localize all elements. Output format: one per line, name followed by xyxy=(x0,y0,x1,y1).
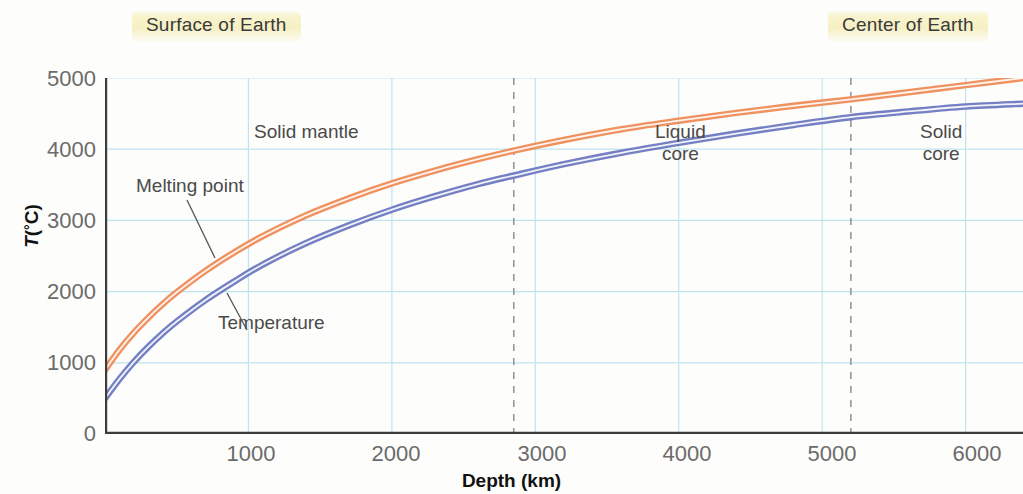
y-tick-5000: 5000 xyxy=(6,66,96,92)
label-surface-of-earth: Surface of Earth xyxy=(132,10,301,42)
curve-label-temperature: Temperature xyxy=(218,312,325,334)
y-tick-4000: 4000 xyxy=(6,137,96,163)
chart-svg xyxy=(105,78,1023,434)
label-center-of-earth: Center of Earth xyxy=(828,10,988,42)
melting-point-leader-line xyxy=(187,200,215,258)
x-axis-title: Depth (km) xyxy=(0,470,1023,492)
x-tick-5000: 5000 xyxy=(808,441,857,467)
x-tick-1000: 1000 xyxy=(227,441,276,467)
grid-lines xyxy=(105,78,1023,434)
region-label-liquid-core: Liquid core xyxy=(655,121,706,165)
curve-label-melting-point: Melting point xyxy=(136,175,244,197)
y-tick-3000: 3000 xyxy=(6,208,96,234)
x-tick-2000: 2000 xyxy=(372,441,421,467)
plot-area xyxy=(105,78,1023,434)
y-tick-0: 0 xyxy=(6,421,96,447)
figure-canvas: Surface of Earth Center of Earth T(°C) D… xyxy=(0,0,1023,494)
region-label-solid-core-line1: Solid xyxy=(920,121,962,143)
region-label-solid-mantle: Solid mantle xyxy=(254,121,359,143)
region-label-solid-core-line2: core xyxy=(920,143,962,165)
x-tick-4000: 4000 xyxy=(663,441,712,467)
y-axis-tick-labels: 0 1000 2000 3000 4000 5000 xyxy=(0,0,96,494)
region-label-liquid-core-line1: Liquid xyxy=(655,121,706,143)
y-tick-1000: 1000 xyxy=(6,350,96,376)
region-label-liquid-core-line2: core xyxy=(655,143,706,165)
x-tick-6000: 6000 xyxy=(953,441,1002,467)
data-curves xyxy=(105,78,1023,398)
region-label-solid-core: Solid core xyxy=(920,121,962,165)
x-tick-3000: 3000 xyxy=(518,441,567,467)
y-tick-2000: 2000 xyxy=(6,279,96,305)
